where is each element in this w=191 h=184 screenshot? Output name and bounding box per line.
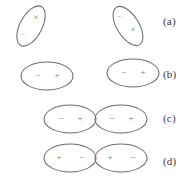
ellipse-b-right [107, 59, 159, 87]
dash-mark-a-right-0: − [117, 12, 121, 21]
minus-mark-d-left-1: − [79, 152, 84, 162]
ellipse-b-left [21, 62, 73, 90]
cross-mark-a-left-0: × [33, 12, 38, 22]
minus-mark-d-right-1: − [130, 152, 135, 162]
minus-mark-b-right-0: − [121, 67, 126, 77]
ellipse-a-right [107, 2, 149, 51]
minus-mark-c-right-0: − [109, 113, 114, 123]
plus-mark-b-left-1: + [54, 70, 59, 80]
row-label-a: (a) [163, 15, 176, 27]
ellipse-d-left [44, 144, 96, 172]
plus-mark-b-right-1: + [140, 67, 145, 77]
minus-mark-b-left-0: − [35, 70, 40, 80]
ellipse-c-left [44, 105, 96, 133]
ellipse-a-left [11, 1, 51, 50]
shape-group-row-d: +−+− [44, 144, 147, 172]
plus-mark-d-right-0: + [107, 152, 112, 162]
minus-mark-c-left-0: − [58, 113, 63, 123]
cross-mark-a-right-1: × [130, 24, 135, 34]
row-label-c: (c) [163, 112, 176, 124]
shape-group-row-b: −+−+ [21, 59, 159, 90]
row-label-d: (d) [163, 155, 176, 167]
ellipse-c-right [95, 105, 147, 133]
dash-mark-a-left-1: − [21, 30, 25, 39]
dipole-configuration-figure: ×−−×−+−+−+−++−+− (a) (b) (c) (d) [0, 0, 191, 184]
shape-group-row-a: ×−−× [11, 1, 149, 50]
plus-mark-d-left-0: + [56, 152, 61, 162]
plus-mark-c-right-1: + [128, 113, 133, 123]
shape-group-row-c: −+−+ [44, 105, 147, 133]
ellipse-d-right [95, 144, 147, 172]
row-label-b: (b) [163, 68, 176, 80]
plus-mark-c-left-1: + [77, 113, 82, 123]
